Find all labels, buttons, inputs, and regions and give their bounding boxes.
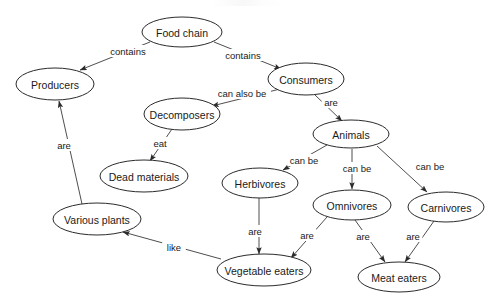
node-label: Consumers: [279, 74, 333, 86]
node-omnivores[interactable]: Omnivores: [313, 190, 391, 220]
edge-label-e3: can also be: [218, 88, 267, 99]
node-label: Food chain: [156, 27, 208, 39]
edge-label-e7: can be: [290, 155, 319, 166]
edge-label-e13: are: [406, 231, 420, 242]
node-food-chain[interactable]: Food chain: [142, 17, 222, 47]
node-label: Decomposers: [150, 109, 215, 121]
node-consumers[interactable]: Consumers: [268, 63, 344, 95]
node-label: Various plants: [64, 214, 130, 226]
node-label: Dead materials: [109, 171, 180, 183]
edge-label-e11: are: [300, 230, 314, 241]
edge-various-plants-to-producers: [59, 101, 82, 204]
node-label: Herbivores: [235, 178, 286, 190]
node-various-plants[interactable]: Various plants: [53, 203, 141, 235]
concept-map-svg: Food chainProducersConsumersDecomposersD…: [0, 0, 496, 307]
edge-label-e12: are: [356, 231, 370, 242]
node-vegetable-eaters[interactable]: Vegetable eaters: [217, 254, 311, 286]
edge-line: [59, 101, 82, 204]
node-label: Animals: [332, 129, 369, 141]
edge-label-e10: are: [248, 226, 262, 237]
edge-label-e1: contains: [110, 46, 146, 57]
node-carnivores[interactable]: Carnivores: [408, 192, 484, 222]
node-label: Carnivores: [421, 202, 472, 214]
edge-label-e8: can be: [343, 163, 372, 174]
edge-label-e9: can be: [416, 161, 445, 172]
node-label: Producers: [31, 79, 79, 91]
edge-label-e14: like: [167, 242, 181, 253]
node-dead-materials[interactable]: Dead materials: [100, 160, 188, 192]
node-producers[interactable]: Producers: [16, 68, 94, 100]
node-decomposers[interactable]: Decomposers: [144, 98, 220, 130]
node-herbivores[interactable]: Herbivores: [222, 168, 298, 198]
node-animals[interactable]: Animals: [313, 120, 389, 148]
edge-label-e4: are: [324, 97, 338, 108]
concept-map-canvas: Food chainProducersConsumersDecomposersD…: [0, 0, 496, 307]
edge-label-e6: are: [57, 140, 71, 151]
node-meat-eaters[interactable]: Meat eaters: [358, 262, 440, 292]
node-label: Vegetable eaters: [225, 265, 304, 277]
edge-label-e2: contains: [225, 50, 261, 61]
edge-label-e5: eat: [153, 138, 167, 149]
node-label: Omnivores: [327, 200, 378, 212]
node-label: Meat eaters: [371, 272, 426, 284]
